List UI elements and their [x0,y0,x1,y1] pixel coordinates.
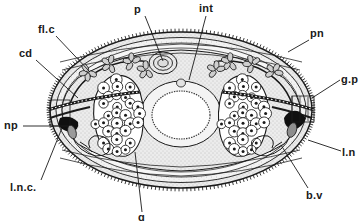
leader-l_n_c [41,128,62,180]
leader-l_n [308,140,341,151]
label-np: np [4,120,18,131]
label-pn: pn [310,28,324,39]
leader-g_p [312,80,340,98]
leader-pn [288,40,309,52]
label-g_p: g.p [341,74,358,85]
gonad-germinal-cells-left [91,74,146,157]
label-p: p [134,4,141,15]
label-fl_c: fl.c [38,24,55,35]
label-cd: cd [19,48,32,59]
label-b_v: b.v [306,190,323,201]
label-int: int [199,3,213,14]
label-l_n: l.n [342,147,355,158]
pharynx-rings [149,52,177,74]
figure-canvas: pintfl.cpncdg.pnpl.nl.n.c.b.vg [0,0,363,221]
label-g: g [138,212,145,221]
label-l_n_c: l.n.c. [10,182,36,193]
